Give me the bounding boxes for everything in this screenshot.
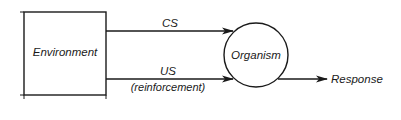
response-edge: Response: [278, 73, 383, 85]
environment-label: Environment: [33, 46, 98, 58]
environment-node: Environment: [20, 12, 106, 99]
us-label: US: [160, 65, 176, 77]
us-edge: US (reinforcement): [106, 65, 233, 93]
organism-node: Organism: [224, 23, 288, 87]
response-label: Response: [331, 73, 383, 85]
conditioning-diagram: Environment CS US (reinforcement) Organi…: [0, 0, 401, 120]
organism-label: Organism: [231, 49, 281, 61]
cs-label: CS: [162, 17, 178, 29]
cs-edge: CS: [106, 17, 233, 31]
us-sublabel: (reinforcement): [131, 81, 206, 93]
